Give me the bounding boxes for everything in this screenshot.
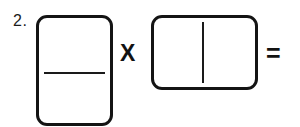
fraction-bar: [44, 72, 105, 74]
problem-number: 2.: [13, 13, 27, 29]
multiply-sign: X: [120, 42, 135, 65]
worksheet-problem: 2. X =: [0, 0, 300, 127]
fraction-box-horizontal[interactable]: [151, 15, 258, 90]
equals-sign: =: [266, 41, 281, 66]
vertical-divider: [202, 22, 204, 83]
fraction-box-vertical[interactable]: [36, 15, 113, 126]
